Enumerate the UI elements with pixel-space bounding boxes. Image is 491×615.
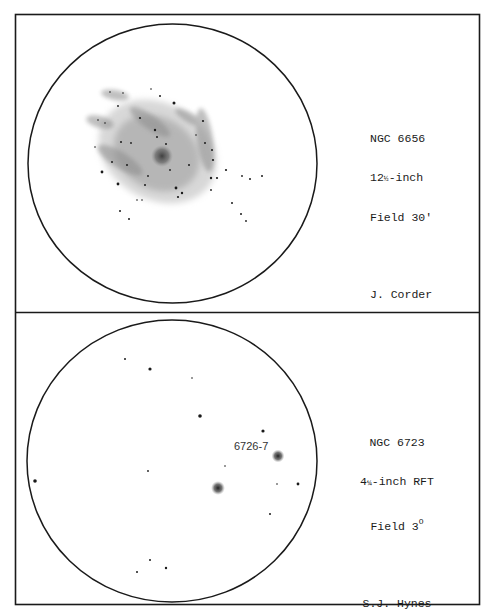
field-stars <box>33 358 299 573</box>
aperture-whole: 4 <box>360 475 367 488</box>
caption-ngc6723: NGC 6723 4¼-inch RFT Field 3O S.J. Hynes <box>352 410 442 615</box>
field-of-view: Field 3O <box>352 515 442 533</box>
object-name: NGC 6656 <box>370 132 432 145</box>
aperture-unit: -inch RFT <box>372 475 434 488</box>
field-of-view: Field 30' <box>370 211 432 224</box>
nebula-ngc6726-7 <box>272 450 285 463</box>
aperture-unit: -inch <box>389 171 424 184</box>
observer-name: J. Corder <box>370 288 432 301</box>
field-value: Field 3 <box>370 520 418 533</box>
aperture-whole: 12 <box>370 171 384 184</box>
nebula-annotation: 6726-7 <box>234 440 268 452</box>
cluster-core <box>151 145 173 167</box>
telescope-aperture: 4¼-inch RFT <box>352 475 442 489</box>
eyepiece-field-ngc6656 <box>28 24 317 303</box>
observer-name: S.J. Hynes <box>352 597 442 610</box>
degree-mark: O <box>419 517 424 526</box>
globular-cluster-ngc6723 <box>211 481 225 495</box>
telescope-aperture: 12½-inch <box>370 171 432 185</box>
object-name: NGC 6723 <box>352 436 442 449</box>
caption-ngc6656: NGC 6656 12½-inch Field 30' J. Corder <box>370 106 432 314</box>
eyepiece-field-ngc6723 <box>27 320 317 602</box>
